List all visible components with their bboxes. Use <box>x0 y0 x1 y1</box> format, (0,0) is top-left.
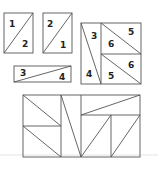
label-square-lower-left: 5 <box>108 71 114 81</box>
label-rect-a-bottom: 2 <box>22 39 28 49</box>
square: 3 4 5 6 6 5 <box>81 23 141 84</box>
label-rect-b-bottom: 1 <box>60 40 66 50</box>
label-strip-left: 3 <box>20 68 26 78</box>
label-square-lower-right: 6 <box>128 60 134 70</box>
puzzle-diagram: 1 2 2 1 3 4 3 4 5 6 6 5 <box>0 0 158 169</box>
label-square-upper-right: 5 <box>128 27 134 37</box>
strip: 3 4 <box>14 66 71 82</box>
label-square-left-top: 3 <box>91 31 97 41</box>
label-rect-a-top: 1 <box>9 19 15 29</box>
rect-b: 2 1 <box>43 13 72 53</box>
rect-a: 1 2 <box>4 13 33 53</box>
label-rect-b-top: 2 <box>47 19 53 29</box>
label-square-upper-left: 6 <box>108 39 114 49</box>
label-strip-right: 4 <box>59 72 65 82</box>
assembled-rectangle <box>23 95 140 157</box>
label-square-left-bottom: 4 <box>86 69 92 79</box>
